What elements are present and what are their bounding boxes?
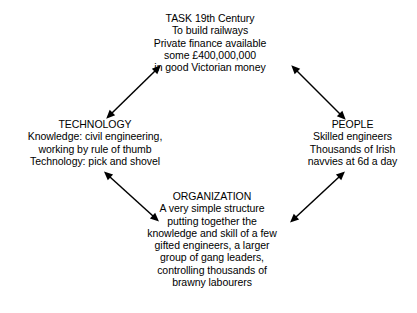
node-people-heading: PEOPLE [288, 118, 417, 130]
connector-task-people [297, 71, 340, 114]
node-people-line-1: Skilled engineers [288, 130, 417, 142]
connector-task-technology [112, 71, 155, 113]
node-technology-heading: TECHNOLOGY [0, 118, 190, 130]
node-organization-line-1: A very simple structure [122, 202, 302, 214]
node-technology-line-2: working by rule of thumb [0, 143, 190, 155]
node-organization-line-4: gifted engineers, a larger [122, 239, 302, 251]
node-organization-line-6: controlling thousands of [122, 264, 302, 276]
node-task-line-1: To build railways [110, 24, 310, 36]
node-organization: ORGANIZATION A very simple structure put… [122, 190, 302, 288]
node-technology-line-3: Technology: pick and shovel [0, 155, 190, 167]
node-organization-line-5: group of gang leaders, [122, 251, 302, 263]
node-organization-line-7: brawny labourers [122, 276, 302, 288]
node-task-line-4: in good Victorian money [110, 61, 310, 73]
cycle-diagram: TASK 19th Century To build railways Priv… [0, 0, 417, 313]
node-people-line-3: navvies at 6d a day [288, 155, 417, 167]
node-technology: TECHNOLOGY Knowledge: civil engineering,… [0, 118, 190, 167]
node-people: PEOPLE Skilled engineers Thousands of Ir… [288, 118, 417, 167]
node-organization-line-2: putting together the [122, 215, 302, 227]
node-organization-line-3: knowledge and skill of a few [122, 227, 302, 239]
node-task-line-2: Private finance available [110, 37, 310, 49]
node-task-line-3: some £400,000,000 [110, 49, 310, 61]
connector-people-organization [296, 177, 339, 217]
node-organization-heading: ORGANIZATION [122, 190, 302, 202]
node-people-line-2: Thousands of Irish [288, 143, 417, 155]
node-technology-line-1: Knowledge: civil engineering, [0, 130, 190, 142]
node-task-heading: TASK 19th Century [110, 12, 310, 24]
node-task: TASK 19th Century To build railways Priv… [110, 12, 310, 73]
